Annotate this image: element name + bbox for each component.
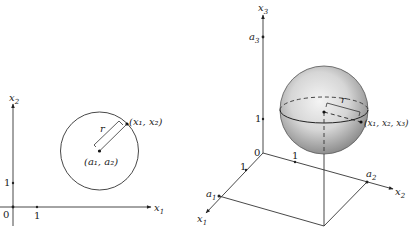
x3-axis-label: x3 xyxy=(258,2,269,16)
radius-label: r xyxy=(100,123,106,134)
figure-3d-sphere: x3 a3 1 0 1 1 a1 a2 x1 x2 r (x₁, x₂, x₃) xyxy=(197,2,409,227)
figure-2d-circle: x2 x1 0 1 1 r (a₁, a₂) (x₁, x₂) xyxy=(0,92,164,226)
a1-dot xyxy=(218,195,221,198)
a2-dot xyxy=(366,181,369,184)
tick-x3-label: 1 xyxy=(255,113,261,124)
proj-line-a1 xyxy=(219,196,324,226)
x2-axis-label: x2 xyxy=(9,92,20,106)
x2-axis-3d xyxy=(263,153,393,189)
a2-label: a2 xyxy=(366,168,377,182)
point-label: (x₁, x₂) xyxy=(129,116,163,127)
a3-label: a3 xyxy=(249,31,260,45)
origin-label-3d: 0 xyxy=(254,147,260,158)
radius-bracket xyxy=(94,121,127,151)
a1-label: a1 xyxy=(206,188,216,202)
x2-axis-label-3d: x2 xyxy=(395,186,406,200)
x1-axis-label-3d: x1 xyxy=(197,213,207,227)
origin-label: 0 xyxy=(3,209,9,220)
tick-x-label: 1 xyxy=(34,210,40,221)
center-label: (a₁, a₂) xyxy=(84,156,118,167)
tick-x2 xyxy=(12,182,14,184)
sphere-point-dot xyxy=(359,120,362,123)
origin-dot xyxy=(12,206,15,209)
a3-dot xyxy=(262,36,265,39)
sphere-center-dot xyxy=(322,110,325,113)
figure-canvas: x2 x1 0 1 1 r (a₁, a₂) (x₁, x₂) xyxy=(0,0,416,240)
tick-y-label: 1 xyxy=(4,177,10,188)
tick-x1-label-3d: 1 xyxy=(240,161,246,172)
proj-line-a2 xyxy=(324,182,367,226)
tick-x2-3d xyxy=(294,161,296,163)
x1-axis-label: x1 xyxy=(154,202,164,216)
tick-x2-label-3d: 1 xyxy=(292,150,298,161)
point-label-3d: (x₁, x₂, x₃) xyxy=(364,118,409,128)
tick-x3 xyxy=(262,118,264,120)
x1-axis-3d xyxy=(206,153,263,213)
tick-x1 xyxy=(36,206,38,208)
